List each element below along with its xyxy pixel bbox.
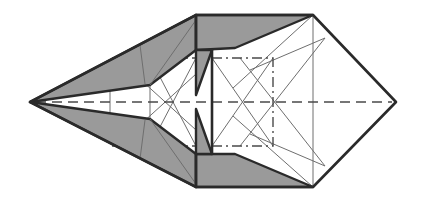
origami-diagram xyxy=(0,0,427,208)
